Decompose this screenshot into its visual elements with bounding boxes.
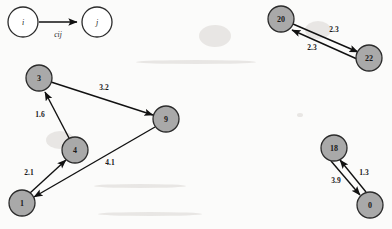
node-20-label: 20 <box>277 15 285 24</box>
node-4-label: 4 <box>73 146 77 155</box>
node-9-label: 9 <box>164 115 168 124</box>
bottom-right-cluster-edge-labels: 3.9 1.3 <box>331 168 369 185</box>
legend-node-i-label: i <box>22 18 24 27</box>
edge-label-20-22: 2.3 <box>329 25 339 34</box>
node-3-label: 3 <box>37 74 41 83</box>
bottom-right-cluster-nodes: 18 0 <box>321 135 383 218</box>
edge-label-9-1: 4.1 <box>105 158 115 167</box>
edge-label-3-9: 3.2 <box>99 83 109 92</box>
edge-4-to-3 <box>45 92 69 138</box>
node-22-label: 22 <box>365 54 373 63</box>
edge-label-0-18: 1.3 <box>359 168 369 177</box>
edge-label-4-3: 1.6 <box>35 110 45 119</box>
graph-diagram-page: i j cij 3 9 4 1 3.2 1.6 4.1 2.1 <box>0 0 392 229</box>
node-1-label: 1 <box>20 199 24 208</box>
edge-label-22-20: 2.3 <box>307 43 317 52</box>
left-cluster-nodes: 3 9 4 1 <box>9 65 179 216</box>
legend-edge-label: cij <box>54 30 62 39</box>
edge-label-18-0: 3.9 <box>331 176 341 185</box>
diagram-canvas: i j cij 3 9 4 1 3.2 1.6 4.1 2.1 <box>0 0 392 229</box>
edge-cost-legend: i j cij <box>8 7 112 39</box>
node-0-label: 0 <box>368 201 372 210</box>
edge-label-1-4: 2.1 <box>24 168 34 177</box>
edge-1-to-4 <box>30 160 66 193</box>
node-18-label: 18 <box>330 144 338 153</box>
scan-artifacts <box>46 21 331 216</box>
